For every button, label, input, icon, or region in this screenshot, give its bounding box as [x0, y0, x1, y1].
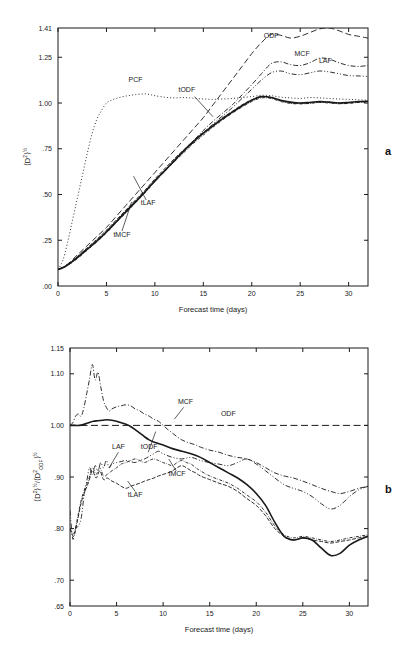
curve-label-todf: tODF	[178, 86, 195, 93]
y-tick-label: 1.00	[50, 422, 64, 429]
plot-frame	[58, 28, 368, 286]
x-axis-title: Forecast time (days)	[179, 305, 248, 314]
panel-letter-a: a	[385, 145, 391, 157]
curve-label-tmcf: tMCF	[113, 231, 130, 238]
y-tick-label: .65	[54, 603, 64, 610]
y-tick-label: 1.10	[50, 370, 64, 377]
leader-line-mcf	[174, 407, 183, 419]
x-tick-label: 0	[56, 290, 60, 297]
curve-label-tmcf: tMCF	[169, 470, 186, 477]
curve-label-todf: tODF	[141, 443, 158, 450]
x-tick-label: 15	[206, 610, 214, 617]
y-tick-label: 1.41	[38, 25, 52, 32]
curve-label-laf: LAF	[112, 443, 125, 450]
leader-line-laf	[109, 452, 118, 467]
x-tick-label: 5	[115, 610, 119, 617]
curve-label-mcf: MCF	[295, 50, 310, 57]
curve-label-pcf: PCF	[129, 76, 143, 83]
x-tick-label: 0	[68, 610, 72, 617]
series-tlaf	[58, 97, 368, 270]
series-tmcf	[70, 459, 368, 542]
y-tick-label: 1.15	[50, 345, 64, 352]
x-tick-label: 15	[199, 290, 207, 297]
series-laf	[70, 451, 368, 539]
x-tick-label: 30	[345, 610, 353, 617]
series-tmcf	[58, 98, 368, 270]
curve-label-mcf: MCF	[178, 398, 193, 405]
x-tick-label: 5	[104, 290, 108, 297]
series-pcf	[58, 94, 368, 270]
x-tick-label: 25	[296, 290, 304, 297]
series-todf	[70, 420, 368, 556]
curve-label-tlaf: tLAF	[128, 491, 143, 498]
series-tlaf	[70, 466, 368, 543]
y-tick-label: 1.00	[38, 100, 52, 107]
chart-panel-a: 051015202530.00.25.50.751.001.251.41Fore…	[0, 0, 413, 330]
curve-label-tlaf: tLAF	[141, 199, 156, 206]
panel-b-plot: 051015202530.65.70.80.901.001.101.15Fore…	[0, 330, 413, 658]
leader-line-todf	[195, 97, 213, 117]
svg-text:⟨D2⟩½/⟨D2ODF⟩½: ⟨D2⟩½/⟨D2ODF⟩½	[32, 451, 44, 501]
x-axis-title: Forecast time (days)	[185, 625, 254, 634]
x-tick-label: 10	[151, 290, 159, 297]
y-tick-label: .75	[42, 145, 52, 152]
y-axis-title: ⟨D2⟩½/⟨D2ODF⟩½	[32, 451, 44, 501]
series-mcf	[70, 365, 368, 494]
curve-label-laf: LAF	[319, 57, 332, 64]
plot-frame	[70, 348, 368, 606]
x-tick-label: 30	[345, 290, 353, 297]
panel-a-plot: 051015202530.00.25.50.751.001.251.41Fore…	[0, 0, 413, 330]
y-tick-label: .70	[54, 577, 64, 584]
panel-letter-b: b	[385, 483, 392, 495]
chart-panel-b: 051015202530.65.70.80.901.001.101.15Fore…	[0, 330, 413, 658]
series-laf	[58, 71, 368, 270]
y-tick-label: .00	[42, 283, 52, 290]
curve-label-odf: ODF	[221, 410, 236, 417]
series-mcf	[58, 58, 368, 270]
y-tick-label: .25	[42, 237, 52, 244]
y-tick-label: .90	[54, 474, 64, 481]
figure-root: 051015202530.00.25.50.751.001.251.41Fore…	[0, 0, 413, 658]
y-tick-label: .50	[42, 191, 52, 198]
y-tick-label: .80	[54, 525, 64, 532]
x-tick-label: 20	[252, 610, 260, 617]
leader-line-tmcf	[122, 202, 132, 231]
y-tick-label: 1.25	[38, 54, 52, 61]
y-axis-title: ⟨D2⟩½	[22, 147, 32, 166]
x-tick-label: 25	[299, 610, 307, 617]
x-tick-label: 10	[159, 610, 167, 617]
curve-label-odf: ODF	[264, 32, 279, 39]
x-tick-label: 20	[248, 290, 256, 297]
svg-text:⟨D2⟩½: ⟨D2⟩½	[22, 147, 32, 166]
series-todf	[58, 96, 368, 269]
